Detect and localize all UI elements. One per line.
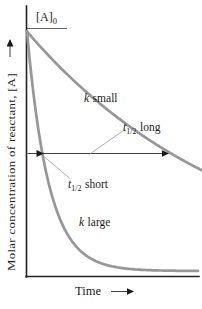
k-large-label: klarge [79,216,110,229]
k-small-label: ksmall [84,92,118,104]
t-half-long-leader-line [89,130,125,155]
initial-concentration-label: [A]0 [36,10,57,26]
y-axis-label: Molar concentration of reactant, [A] [5,73,17,271]
chart-canvas: [A]0 ksmall t1/2long t1/2short klarge Ti… [0,0,202,309]
t-half-short-label: t1/2short [68,178,109,193]
kinetics-decay-figure: [A]0 ksmall t1/2long t1/2short klarge Ti… [0,0,202,309]
x-axis-label: Time [75,284,101,298]
curve-k-large [27,32,198,271]
